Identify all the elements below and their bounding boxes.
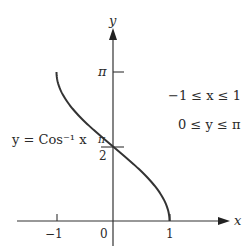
- x-axis-label: x: [234, 214, 241, 227]
- y-axis-label: y: [109, 14, 116, 27]
- x-tick-label-0: 0: [100, 228, 108, 240]
- x-tick-label-neg1: −1: [45, 228, 63, 240]
- y-tick-label-pi-half-denominator: 2: [99, 150, 107, 162]
- x-tick-label-1: 1: [166, 228, 174, 240]
- domain-annotation: −1 ≤ x ≤ 1: [168, 89, 241, 102]
- curve-label: y = Cos⁻¹ x: [12, 133, 86, 146]
- y-tick-label-pi: π: [98, 65, 107, 78]
- y-axis-arrow-icon: [109, 28, 117, 40]
- range-annotation: 0 ≤ y ≤ π: [178, 118, 240, 131]
- x-axis-arrow-icon: [218, 217, 230, 225]
- y-tick-label-pi-half-numerator: π: [98, 134, 105, 145]
